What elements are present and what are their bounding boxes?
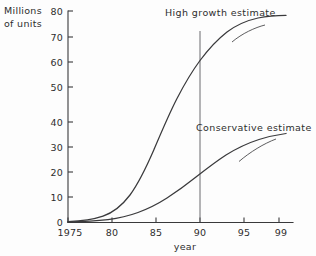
x-tick-label-1995: 95 <box>238 227 251 238</box>
chart-container: 80 70 60 50 40 30 20 10 0 1975 80 85 90 … <box>0 0 316 256</box>
y-tick-label-20: 20 <box>51 167 64 178</box>
line-chart: 80 70 60 50 40 30 20 10 0 1975 80 85 90 … <box>0 0 316 256</box>
x-tick-label-1990: 90 <box>194 227 207 238</box>
y-tick-label-40: 40 <box>51 117 64 128</box>
x-tick-label-1985: 85 <box>150 227 163 238</box>
conservative-leader-line <box>239 139 276 162</box>
y-axis-title-line1: Millions <box>4 5 42 16</box>
y-axis-ticks <box>68 11 73 222</box>
y-tick-label-60: 60 <box>51 57 64 68</box>
y-tick-label-50: 50 <box>51 82 64 93</box>
x-tick-label-1980: 80 <box>106 227 119 238</box>
x-tick-label-1975: 1975 <box>58 227 83 238</box>
x-axis-title: year <box>174 241 196 252</box>
conservative-label: Conservative estimate <box>196 122 312 133</box>
high-growth-leader-line <box>232 25 265 42</box>
y-tick-label-70: 70 <box>51 32 64 43</box>
y-axis-title-line2: of units <box>4 18 42 29</box>
y-tick-label-0: 0 <box>57 217 63 228</box>
x-tick-label-1999: 99 <box>275 227 288 238</box>
high-growth-label: High growth estimate <box>165 7 276 18</box>
y-tick-label-80: 80 <box>51 6 64 17</box>
conservative-curve <box>68 134 286 222</box>
y-tick-label-30: 30 <box>51 142 64 153</box>
y-tick-label-10: 10 <box>51 192 64 203</box>
